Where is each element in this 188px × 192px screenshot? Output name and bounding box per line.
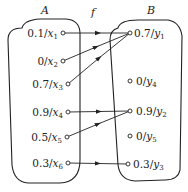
node-y1: 0.7/y1: [128, 27, 165, 41]
set-a-label: A: [40, 4, 49, 17]
fuzzy-mapping-diagram: A B f 0.1/x1 0/x2 0.7/x3 0.9/x4 0.5/x5: [0, 0, 188, 192]
node-x6: 0.3/x6: [32, 157, 70, 171]
edge-x5-y2: [67, 111, 130, 137]
node-x4: 0.9/x4: [32, 106, 70, 120]
svg-text:0.5/x5: 0.5/x5: [31, 131, 62, 145]
edge-x6-y3: [68, 163, 128, 164]
set-b-label: B: [146, 4, 155, 17]
svg-text:0.3/y3: 0.3/y3: [133, 158, 164, 172]
node-y5: 0/y5: [128, 130, 157, 144]
svg-text:0/y5: 0/y5: [136, 130, 157, 144]
set-b-boundary: [110, 20, 182, 181]
node-x5: 0.5/x5: [31, 131, 69, 145]
svg-text:0.1/x1: 0.1/x1: [27, 27, 58, 41]
node-x2: 0/x2: [37, 55, 65, 69]
svg-text:0.9/y2: 0.9/y2: [136, 105, 167, 119]
edge-x2-y1: [63, 33, 130, 61]
node-y2: 0.9/y2: [128, 105, 167, 119]
edges: [63, 33, 130, 164]
svg-text:0/y4: 0/y4: [136, 75, 157, 89]
svg-text:0/x2: 0/x2: [37, 55, 58, 69]
svg-text:0.3/x6: 0.3/x6: [32, 157, 63, 171]
edge-x4-y2: [68, 111, 130, 112]
set-a-elements: 0.1/x1 0/x2 0.7/x3 0.9/x4 0.5/x5 0.3/x6: [27, 27, 70, 171]
svg-text:0.7/x3: 0.7/x3: [32, 78, 63, 92]
svg-text:0.7/y1: 0.7/y1: [134, 27, 165, 41]
svg-text:0.9/x4: 0.9/x4: [32, 106, 63, 120]
node-y3: 0.3/y3: [126, 158, 164, 172]
set-b-elements: 0.7/y1 0/y4 0.9/y2 0/y5 0.3/y3: [126, 27, 167, 172]
node-x3: 0.7/x3: [32, 78, 70, 92]
node-x1: 0.1/x1: [27, 27, 65, 41]
edge-x3-y1: [68, 33, 130, 84]
mapping-label: f: [90, 6, 97, 19]
node-y4: 0/y4: [128, 75, 157, 89]
